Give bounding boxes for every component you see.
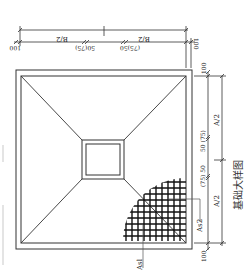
top-dim-half-left: B/2 [56, 35, 68, 43]
rebar-label-right: As2 [196, 219, 204, 233]
top-dim-outer-left: 100 [9, 45, 21, 52]
right-dim-top-edge: 100 [200, 62, 207, 74]
rebar-leaders [143, 199, 200, 268]
rebar-mesh [120, 170, 190, 245]
top-dim-inner-right: (75)50 [120, 45, 140, 52]
right-dim-inner-bottom: (75) 50 [199, 165, 206, 187]
figure-caption: 基础大样图 [232, 160, 244, 210]
top-dim-half-right: B/2 [138, 35, 150, 43]
column-outer-outline [82, 140, 124, 179]
top-dim-inner-left: 50(75) [75, 45, 95, 52]
right-dim-bottom-edge: 100 [200, 250, 207, 262]
right-dim-half-top: A/2 [213, 114, 221, 127]
column-inner-outline [86, 144, 120, 175]
right-dim-inner-top: 50 (75) [199, 130, 206, 152]
top-dim-outer-right: 100 [193, 38, 200, 50]
foundation-detail-drawing: Asl As2 B/2 B/2 100 50(75) (75)50 100 [0, 0, 248, 276]
top-dimension-lines [14, 26, 195, 68]
rebar-label-bottom: Asl [136, 258, 144, 271]
right-dim-half-bottom: A/2 [213, 195, 221, 208]
